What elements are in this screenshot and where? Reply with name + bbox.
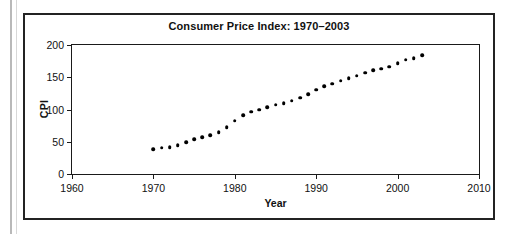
x-axis-tick — [479, 174, 480, 179]
data-point — [184, 140, 188, 144]
data-point — [355, 74, 359, 78]
data-point — [152, 147, 156, 151]
data-point — [306, 92, 310, 96]
data-point — [274, 103, 278, 107]
y-axis-tick-label: 150 — [46, 71, 64, 83]
data-point — [266, 105, 270, 109]
y-axis-tick-label: 50 — [52, 136, 64, 148]
figure-container: Consumer Price Index: 1970–2003 CPI 0501… — [23, 13, 495, 220]
data-point — [363, 71, 367, 75]
data-point — [168, 145, 172, 149]
data-point — [200, 136, 204, 140]
x-axis-tick — [153, 174, 154, 179]
data-point — [209, 133, 213, 137]
data-point — [241, 114, 245, 118]
data-point — [339, 79, 343, 83]
scatter-series — [72, 45, 479, 174]
data-point — [282, 102, 286, 106]
y-axis-tick-label: 0 — [58, 168, 64, 180]
page-edge-rule — [10, 0, 12, 234]
data-point — [404, 58, 408, 62]
data-point — [347, 77, 351, 81]
x-axis-tick-label: 2010 — [467, 182, 490, 194]
y-axis-tick-label: 100 — [46, 104, 64, 116]
x-axis-tick — [72, 174, 73, 179]
data-point — [217, 130, 221, 134]
data-point — [420, 54, 424, 58]
data-point — [257, 108, 261, 112]
data-point — [233, 119, 237, 123]
x-axis-tick — [235, 174, 236, 179]
x-axis-tick — [398, 174, 399, 179]
x-axis-tick-label: 2000 — [386, 182, 409, 194]
data-point — [331, 82, 335, 86]
data-point — [160, 146, 164, 150]
data-point — [412, 56, 416, 60]
data-point — [388, 65, 392, 69]
data-point — [314, 88, 318, 92]
x-axis-title: Year — [71, 197, 480, 209]
data-point — [298, 96, 302, 100]
plot-area: 050100150200 196019701980199020002010 — [71, 44, 480, 175]
data-point — [290, 99, 294, 103]
x-axis-tick-label: 1970 — [142, 182, 165, 194]
x-axis-tick-label: 1960 — [60, 182, 83, 194]
data-point — [176, 144, 180, 148]
data-point — [249, 110, 253, 114]
y-axis-tick-label: 200 — [46, 39, 64, 51]
page-edge-rule-secondary — [16, 0, 17, 234]
x-axis-tick-label: 1990 — [305, 182, 328, 194]
x-axis-tick-label: 1980 — [223, 182, 246, 194]
data-point — [371, 69, 375, 73]
data-point — [323, 84, 327, 88]
data-point — [225, 125, 229, 129]
x-axis-tick — [316, 174, 317, 179]
data-point — [192, 138, 196, 142]
chart-title: Consumer Price Index: 1970–2003 — [25, 20, 493, 32]
data-point — [396, 61, 400, 65]
data-point — [380, 67, 384, 71]
